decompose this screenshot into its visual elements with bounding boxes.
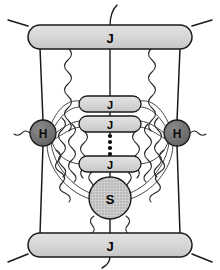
eikonal-line-bottom-left	[40, 145, 43, 234]
external-leg-bottom-right	[192, 254, 212, 262]
ellipsis-dot	[108, 140, 112, 144]
gluon-top-right-long	[149, 48, 156, 131]
jet-inner-1-label: J	[107, 99, 113, 111]
gluon-right-b	[144, 124, 152, 182]
eikonal-line-bottom-right	[177, 145, 180, 234]
external-leg-bottom-left	[8, 254, 28, 262]
soft-function-label: S	[106, 192, 115, 207]
hard-vertex-right-node[interactable]: H	[164, 120, 190, 146]
ellipsis-dot	[108, 152, 112, 156]
external-leg-top-right	[192, 20, 212, 26]
jet-inner-1-node[interactable]: J	[79, 96, 141, 112]
jet-inner-3-label: J	[107, 159, 113, 171]
hard-vertex-left-node[interactable]: H	[30, 120, 56, 146]
jet-bottom-node[interactable]: J	[28, 233, 192, 257]
external-leg-top-center	[110, 5, 117, 26]
jet-inner-3-node[interactable]: J	[79, 156, 141, 172]
soft-function-node[interactable]: S	[89, 177, 131, 219]
gluon-soft-bottom-right	[126, 216, 130, 234]
external-leg-bottom-center	[102, 256, 110, 268]
eikonal-line-top-left	[40, 48, 43, 121]
ellipsis-dot	[108, 146, 112, 150]
gluon-right-a	[154, 118, 161, 177]
gluon-left-b	[69, 124, 77, 182]
jet-inner-2-node[interactable]: J	[79, 116, 141, 132]
ellipsis-dot	[108, 134, 112, 138]
jet-top-label: J	[106, 31, 113, 46]
factorization-diagram: J J J J J	[0, 0, 220, 270]
jet-bottom-label: J	[106, 239, 113, 254]
gluon-soft-bottom-left	[90, 216, 94, 234]
gluon-top-left-long	[65, 48, 72, 131]
hard-vertex-left-label: H	[39, 127, 48, 141]
hard-vertex-right-label: H	[173, 127, 182, 141]
diagram-canvas: J J J J J	[0, 0, 220, 270]
jet-top-node[interactable]: J	[28, 25, 192, 49]
gluon-left-h-whisker	[14, 131, 30, 135]
gluon-right-h-whisker	[190, 131, 206, 135]
external-leg-top-left	[8, 20, 28, 26]
gluon-left-a	[59, 118, 66, 177]
jet-inner-2-label: J	[107, 119, 113, 131]
vertical-ellipsis-icon	[108, 134, 112, 156]
eikonal-line-top-right	[177, 48, 180, 121]
